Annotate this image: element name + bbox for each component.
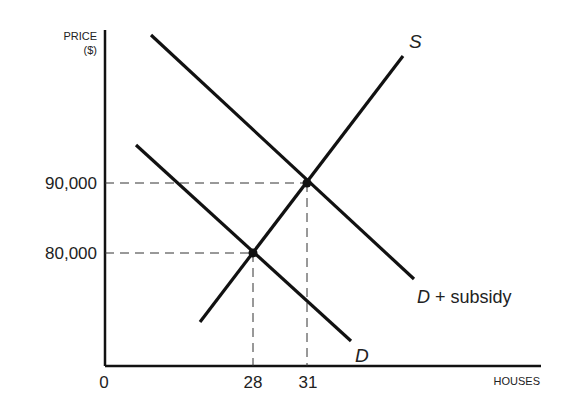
x-axis-label: HOUSES [494, 375, 540, 387]
x-tick-31: 31 [299, 373, 318, 392]
demand-plus-subsidy-curve [151, 35, 414, 279]
y-tick-90000: 90,000 [45, 174, 97, 193]
supply-demand-chart: PRICE ($) 90,000 80,000 0 28 31 HOUSES S… [0, 0, 567, 416]
equilibrium-point-subsidy [303, 179, 312, 188]
supply-curve-label: S [409, 31, 422, 52]
y-axis-label-line2: ($) [84, 44, 97, 56]
demand-subsidy-curve-label: D + subsidy [417, 287, 512, 307]
demand-subsidy-label-d: D [417, 287, 430, 307]
x-tick-28: 28 [244, 373, 263, 392]
y-axis-label-line1: PRICE [63, 30, 97, 42]
x-origin-label: 0 [99, 373, 108, 392]
demand-curve [136, 145, 351, 341]
equilibrium-point-original [249, 249, 258, 258]
supply-curve [200, 56, 403, 322]
demand-subsidy-label-rest: + subsidy [430, 287, 512, 307]
demand-curve-label: D [355, 345, 369, 366]
y-tick-80000: 80,000 [45, 244, 97, 263]
